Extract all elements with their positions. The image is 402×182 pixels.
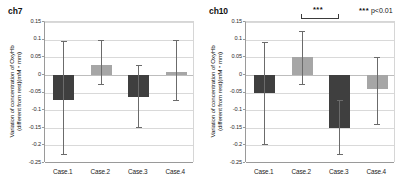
gridline — [45, 145, 193, 146]
gridline — [45, 162, 193, 163]
y-axis-tick-mark — [243, 162, 245, 163]
gridline — [246, 57, 394, 58]
y-axis-tick-label: -0.2 — [219, 141, 242, 147]
y-axis-tick-mark — [243, 144, 245, 145]
y-axis-tick-mark — [42, 144, 44, 145]
error-bar-cap-upper — [136, 65, 142, 66]
error-bar-case-4 — [377, 57, 378, 125]
error-bar-cap-lower — [337, 154, 343, 155]
y-axis-tick-label: -0.15 — [219, 124, 242, 130]
y-axis-tick-label: 0.15 — [219, 18, 242, 24]
figure-root: ch7 Variation of concentration of OxyHb … — [0, 0, 402, 182]
error-bar-cap-upper — [337, 100, 343, 101]
chart-panel-ch10: ch10 Variation of concentration of OxyHb… — [201, 0, 402, 182]
error-bar-case-2 — [101, 40, 102, 83]
error-bar-case-4 — [176, 40, 177, 101]
gridline — [246, 93, 394, 94]
y-axis-tick-mark — [243, 56, 245, 57]
error-bar-cap-upper — [173, 40, 179, 41]
y-axis-tick-label: 0.1 — [18, 35, 41, 41]
chart-title-ch10: ch10 — [209, 6, 228, 16]
significance-legend: *** p<0.01 — [359, 7, 393, 15]
y-axis-tick-label: 0.15 — [18, 18, 41, 24]
y-axis-tick-mark — [243, 109, 245, 110]
error-bar-cap-upper — [98, 40, 104, 41]
y-axis-tick-label: -0.15 — [18, 124, 41, 130]
gridline — [45, 110, 193, 111]
error-bar-case-1 — [63, 41, 64, 154]
y-axis-title-line1: Variation of concentration of OxyHb — [8, 21, 15, 162]
y-axis-tick-mark — [243, 127, 245, 128]
x-axis-label-case-4: Case.4 — [354, 168, 398, 175]
y-axis-tick-mark — [42, 92, 44, 93]
gridline — [246, 110, 394, 111]
error-bar-case-3 — [339, 100, 340, 154]
y-axis-tick-mark — [42, 74, 44, 75]
significance-stars: *** — [313, 6, 323, 14]
y-axis-tick-label: -0.25 — [18, 159, 41, 165]
gridline — [45, 57, 193, 58]
error-bar-cap-lower — [299, 84, 305, 85]
gridline — [246, 162, 394, 163]
plot-area-ch7 — [44, 21, 194, 162]
significance-bracket — [301, 14, 339, 19]
error-bar-cap-lower — [136, 127, 142, 128]
gridline — [246, 22, 394, 23]
error-bar-cap-upper — [262, 42, 268, 43]
y-axis-tick-mark — [42, 162, 44, 163]
y-axis-tick-label: -0.1 — [219, 106, 242, 112]
y-axis-tick-label: -0.05 — [219, 88, 242, 94]
y-axis-tick-mark — [243, 39, 245, 40]
gridline — [45, 22, 193, 23]
y-axis-tick-mark — [42, 39, 44, 40]
error-bar-cap-lower — [262, 144, 268, 145]
y-axis-tick-mark — [42, 56, 44, 57]
y-axis-tick-label: 0 — [219, 71, 242, 77]
error-bar-cap-upper — [61, 41, 67, 42]
y-axis-tick-label: 0.1 — [219, 35, 242, 41]
x-axis-label-case-4: Case.4 — [153, 168, 197, 175]
y-axis-tick-mark — [243, 74, 245, 75]
gridline — [246, 128, 394, 129]
error-bar-cap-lower — [61, 154, 67, 155]
y-axis-tick-mark — [42, 127, 44, 128]
y-axis-tick-label: 0.05 — [18, 53, 41, 59]
y-axis-tick-label: -0.2 — [18, 141, 41, 147]
significance-legend-text: p<0.01 — [371, 7, 393, 14]
error-bar-cap-upper — [299, 31, 305, 32]
error-bar-cap-lower — [98, 84, 104, 85]
gridline — [246, 145, 394, 146]
gridline — [246, 40, 394, 41]
chart-panel-ch7: ch7 Variation of concentration of OxyHb … — [0, 0, 201, 182]
y-axis-tick-mark — [243, 92, 245, 93]
chart-title-ch7: ch7 — [8, 6, 22, 16]
y-axis-tick-label: 0 — [18, 71, 41, 77]
gridline — [45, 40, 193, 41]
y-axis-tick-label: 0.05 — [219, 53, 242, 59]
y-axis-tick-mark — [42, 109, 44, 110]
error-bar-cap-lower — [374, 124, 380, 125]
y-axis-title-line1: Variation of concentration of OxyHb — [209, 21, 216, 162]
significance-legend-stars: *** — [359, 6, 369, 15]
plot-area-ch10 — [245, 21, 395, 162]
error-bar-case-3 — [138, 65, 139, 127]
y-axis-tick-label: -0.1 — [18, 106, 41, 112]
error-bar-case-1 — [264, 42, 265, 144]
error-bar-cap-upper — [374, 57, 380, 58]
y-axis-tick-label: -0.25 — [219, 159, 242, 165]
gridline — [45, 128, 193, 129]
error-bar-cap-lower — [173, 100, 179, 101]
y-axis-tick-mark — [243, 21, 245, 22]
y-axis-tick-mark — [42, 21, 44, 22]
y-axis-tick-label: -0.05 — [18, 88, 41, 94]
error-bar-case-2 — [302, 31, 303, 84]
